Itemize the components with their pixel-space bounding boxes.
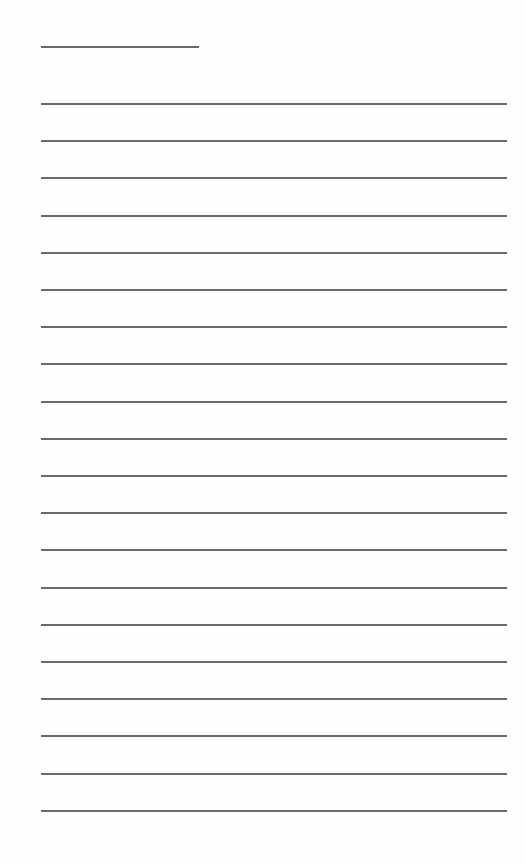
ruled-line [41, 103, 507, 105]
ruled-line [41, 587, 507, 589]
ruled-line [41, 289, 507, 291]
ruled-line [41, 512, 507, 514]
ruled-line [41, 326, 507, 328]
ruled-line [41, 140, 507, 142]
ruled-line [41, 698, 507, 700]
header-name-line [41, 46, 199, 48]
ruled-line [41, 735, 507, 737]
ruled-line [41, 177, 507, 179]
ruled-line [41, 661, 507, 663]
ruled-line [41, 810, 507, 812]
ruled-line [41, 252, 507, 254]
ruled-line [41, 624, 507, 626]
ruled-line [41, 475, 507, 477]
ruled-line [41, 215, 507, 217]
ruled-line [41, 401, 507, 403]
ruled-line [41, 363, 507, 365]
ruled-line [41, 549, 507, 551]
ruled-line [41, 773, 507, 775]
lined-page [0, 0, 526, 864]
ruled-line [41, 438, 507, 440]
